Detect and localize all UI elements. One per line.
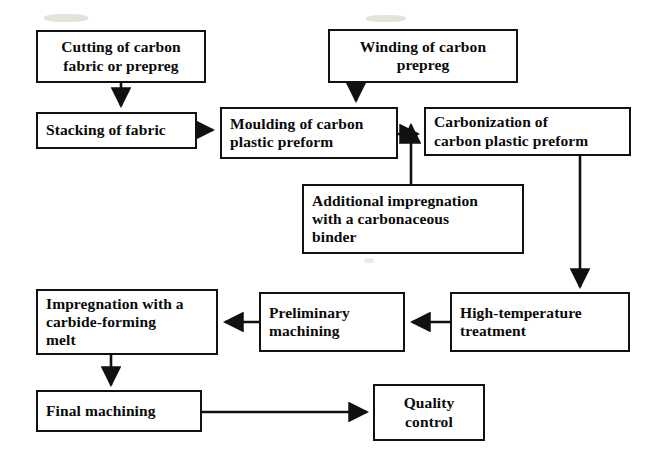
node-final-machining[interactable]: Final machining bbox=[36, 390, 202, 432]
node-additional-impregnation[interactable]: Additional impregnation with a carbonace… bbox=[302, 184, 524, 254]
flowchart-canvas: Cutting of carbon fabric or prepreg Wind… bbox=[0, 0, 655, 470]
node-preliminary-machining[interactable]: Preliminary machining bbox=[259, 292, 405, 352]
node-label: Stacking of fabric bbox=[42, 121, 166, 139]
node-label: Carbonization of carbon plastic preform bbox=[430, 113, 588, 150]
node-carbonization[interactable]: Carbonization of carbon plastic preform bbox=[424, 107, 631, 156]
node-carbide-impregnation[interactable]: Impregnation with a carbide-forming melt bbox=[36, 289, 218, 355]
node-label: Preliminary machining bbox=[265, 304, 350, 341]
node-high-temperature[interactable]: High-temperature treatment bbox=[450, 292, 630, 352]
paper-speck bbox=[364, 258, 374, 263]
node-quality-control[interactable]: Quality control bbox=[373, 384, 485, 441]
node-winding[interactable]: Winding of carbon prepreg bbox=[328, 29, 518, 83]
node-label: Moulding of carbon plastic preform bbox=[226, 115, 364, 152]
node-label: Final machining bbox=[42, 402, 156, 420]
node-moulding[interactable]: Moulding of carbon plastic preform bbox=[220, 107, 398, 159]
node-cutting[interactable]: Cutting of carbon fabric or prepreg bbox=[36, 30, 206, 83]
paper-speck bbox=[366, 15, 406, 22]
node-stacking[interactable]: Stacking of fabric bbox=[36, 112, 197, 149]
node-label: Cutting of carbon fabric or prepreg bbox=[61, 38, 181, 75]
node-label: Quality control bbox=[404, 394, 455, 431]
node-label: Additional impregnation with a carbonace… bbox=[308, 192, 478, 247]
node-label: Impregnation with a carbide-forming melt bbox=[42, 295, 184, 350]
node-label: High-temperature treatment bbox=[456, 304, 582, 341]
paper-speck bbox=[44, 14, 88, 22]
node-label: Winding of carbon prepreg bbox=[360, 38, 486, 75]
